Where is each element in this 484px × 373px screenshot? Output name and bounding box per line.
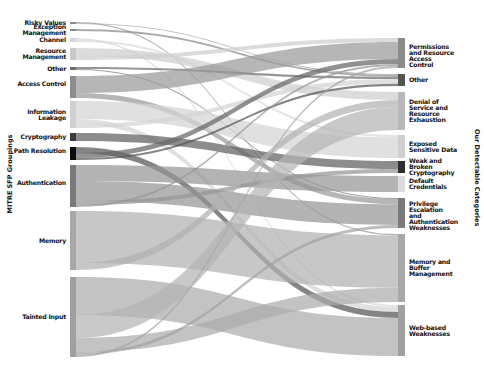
left-node-risky [70,22,76,24]
flow-links [76,22,398,357]
right-label-weak: Weak and Broken Cryptography [409,158,457,176]
right-node-perm [398,38,405,68]
left-label-infoleak: Information Leakage [2,109,66,121]
left-label-exception: Exception Management [2,24,66,36]
right-node-priv [398,198,405,228]
right-axis-title: Our Detectable Categories [473,129,481,219]
left-node-infoleak [70,101,76,128]
right-node-rother [398,74,405,86]
right-node-dos [398,92,405,130]
left-label-tainted: Tainted Input [2,314,66,320]
left-node-memory [70,211,76,270]
left-node-channel [70,38,76,42]
right-node-weak [398,161,405,173]
left-node-auth [70,165,76,207]
left-node-access [70,76,76,98]
right-node-default [398,176,405,192]
right-label-rother: Other [409,77,457,83]
left-label-access: Access Control [2,81,66,87]
right-node-membuf [398,234,405,302]
left-label-resource: Resource Management [2,48,66,60]
right-node-exposed [398,135,405,158]
left-label-channel: Channel [2,37,66,43]
left-node-other [70,67,76,70]
right-label-membuf: Memory and Buffer Management [409,259,457,277]
right-label-exposed: Exposed Sensitive Data [409,141,457,153]
left-node-crypto [70,133,76,141]
left-axis-title: MITRE SFP Groupings [6,134,14,214]
right-node-web [398,305,405,356]
right-label-dos: Denial of Service and Resource Exhaustio… [409,99,457,123]
right-label-default: Default Credentials [409,178,457,190]
left-node-tainted [70,277,76,357]
left-label-memory: Memory [2,238,66,244]
right-label-perm: Permissions and Resource Access Control [409,44,457,68]
left-node-exception [70,29,76,31]
left-node-path [70,147,76,160]
right-label-web: Web-based Weaknesses [409,325,457,337]
left-label-other: Other [2,66,66,72]
left-node-resource [70,48,76,60]
right-label-priv: Privilege Escalation and Authentication … [409,201,457,231]
